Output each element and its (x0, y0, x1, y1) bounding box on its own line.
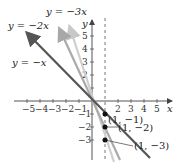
point-1-neg1 (103, 112, 108, 117)
line-label-neg3x: y = −3x (45, 6, 87, 17)
y-tick-label: −1 (78, 109, 91, 119)
y-tick-label: 5 (82, 31, 88, 41)
line-label-negx: y = −x (11, 57, 47, 68)
x-tick-label: 4 (141, 104, 147, 114)
point-1-neg3 (103, 138, 108, 143)
coordinate-plane: −5 −4 −3 −2 −1 2 3 4 5 x 5 4 3 2 −1 −2 −… (0, 0, 182, 162)
x-tick-label: −2 (61, 104, 74, 114)
x-tick-label: 2 (115, 104, 121, 114)
x-tick-label: −3 (48, 104, 62, 114)
point-label-2: (1, −2) (118, 122, 153, 133)
x-axis-label: x (167, 103, 173, 114)
point-label-3: (1, −3) (134, 140, 169, 151)
x-tick-label: −4 (35, 104, 49, 114)
x-tick-label: 3 (128, 104, 134, 114)
x-tick-label: 5 (154, 104, 160, 114)
x-tick-label: −5 (22, 104, 36, 114)
y-tick-label: −3 (78, 135, 92, 145)
line-label-neg2x: y = −2x (7, 20, 49, 31)
y-tick-label: −2 (78, 122, 91, 132)
y-axis-label: y (81, 18, 88, 29)
point-1-neg2 (103, 125, 108, 130)
y-tick-label: 4 (82, 44, 88, 54)
